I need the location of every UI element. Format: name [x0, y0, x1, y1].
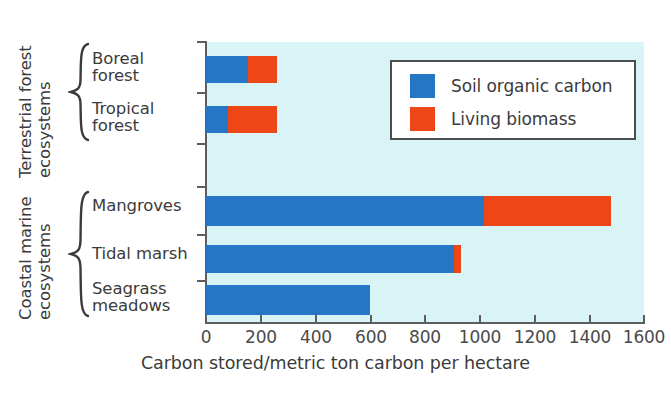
bar-boreal-forest [206, 56, 277, 83]
x-ticklabel-1200: 1200 [514, 327, 556, 347]
x-ticklabel-0: 0 [201, 327, 212, 347]
x-ticklabel-1600: 1600 [623, 327, 665, 347]
legend: Soil organic carbon Living biomass [390, 60, 636, 140]
y-tick-boreal-tropical [197, 92, 206, 94]
legend-label-soil-organic-carbon: Soil organic carbon [451, 76, 612, 96]
x-tick-400 [315, 315, 317, 323]
legend-label-living-biomass: Living biomass [451, 109, 576, 129]
category-label-seagrass-meadows: Seagrass meadows [92, 280, 170, 314]
x-tick-800 [424, 315, 426, 323]
x-tick-600 [370, 315, 372, 323]
x-tick-1400 [589, 315, 591, 323]
x-ticklabel-600: 600 [355, 327, 387, 347]
bar-segment-soil-organic-carbon [206, 106, 228, 133]
y-tick-coastal-top [197, 186, 206, 188]
bar-seagrass-meadows [206, 285, 370, 315]
y-tick-top [197, 41, 206, 43]
bar-segment-living-biomass [248, 56, 277, 83]
category-label-tidal-marsh: Tidal marsh [92, 245, 188, 262]
x-tick-200 [260, 315, 262, 323]
brace-terrestrial-forest [68, 42, 92, 142]
bar-segment-living-biomass [228, 106, 277, 133]
category-label-tropical-forest: Tropical forest [92, 100, 154, 134]
x-axis-title: Carbon stored/metric ton carbon per hect… [0, 353, 671, 373]
x-ticklabel-200: 200 [245, 327, 277, 347]
bar-mangroves [206, 196, 611, 226]
bar-tropical-forest [206, 106, 277, 133]
category-label-boreal-forest: Boreal forest [92, 50, 144, 84]
bar-segment-living-biomass [484, 196, 611, 226]
bar-segment-soil-organic-carbon [206, 196, 484, 226]
x-tick-1000 [479, 315, 481, 323]
chart-figure: 0 200 400 600 800 1000 1200 1400 1600 S [0, 0, 671, 400]
y-tick-tropical-bottom [197, 143, 206, 145]
legend-item-living-biomass: Living biomass [410, 103, 634, 134]
legend-item-soil-organic-carbon: Soil organic carbon [410, 70, 634, 101]
x-ticklabel-1000: 1000 [459, 327, 501, 347]
bar-segment-soil-organic-carbon [206, 245, 454, 273]
x-ticklabel-400: 400 [300, 327, 332, 347]
x-ticklabel-800: 800 [409, 327, 441, 347]
y-tick-tidal-seagrass [197, 280, 206, 282]
legend-swatch-icon-living-biomass [410, 107, 435, 131]
brace-coastal-marine [68, 190, 92, 318]
category-label-mangroves: Mangroves [92, 197, 181, 214]
x-tick-1200 [534, 315, 536, 323]
x-tick-1600 [643, 315, 645, 323]
bar-segment-soil-organic-carbon [206, 285, 370, 315]
bar-segment-living-biomass [454, 245, 461, 273]
bar-tidal-marsh [206, 245, 461, 273]
legend-swatch-icon-soil-organic-carbon [410, 74, 435, 98]
bar-segment-soil-organic-carbon [206, 56, 248, 83]
y-tick-mangroves-tidal [197, 234, 206, 236]
group-label-coastal-marine-ecosystems: Coastal marine ecosystems [16, 150, 54, 320]
x-ticklabel-1400: 1400 [569, 327, 611, 347]
x-tick-0 [205, 315, 207, 323]
